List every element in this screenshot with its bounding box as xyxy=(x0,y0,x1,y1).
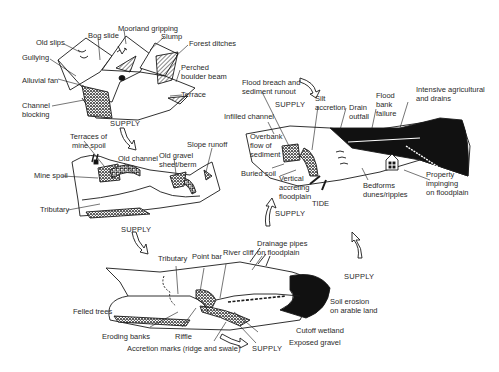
label-intensive-agricultural-2: and drains xyxy=(416,95,451,104)
label-slump: Slump xyxy=(161,33,182,42)
supply-arrow-5 xyxy=(352,232,362,258)
label-flood-breach-2: sediment runout xyxy=(242,88,296,97)
label-soil-erosion-2: on arable land xyxy=(330,307,378,316)
label-supply-5: SUPPLY xyxy=(344,273,374,282)
mountain-left xyxy=(58,38,112,90)
supply-arrow-1 xyxy=(120,128,136,150)
label-accretion-marks: Accretion marks (ridge and swale) xyxy=(127,345,240,354)
label-tributary-mining: Tributary xyxy=(40,206,69,215)
label-supply-6: SUPPLY xyxy=(252,345,282,354)
label-felled-trees: Felled trees xyxy=(73,308,112,317)
label-channel-blocking-2: blocking xyxy=(22,111,50,120)
label-drain-outfall-2: outfall xyxy=(349,113,369,122)
label-infilled-channel: Infilled channel xyxy=(224,113,274,122)
label-supply-4: SUPPLY xyxy=(275,210,305,219)
alluvial-fan xyxy=(82,86,112,118)
label-eroding-banks: Eroding banks xyxy=(102,333,150,342)
overbank-sediment xyxy=(282,144,300,162)
mining-panel xyxy=(72,154,220,218)
label-cutoff-wetland: Cutoff wetland xyxy=(296,327,344,336)
label-property-impinging-3: on floodplain xyxy=(426,189,469,198)
label-drainage-pipes-2: on floodplain xyxy=(257,249,300,258)
label-old-gravel-sheet-2: sheet/berm xyxy=(159,161,197,170)
label-tributary-lowland: Tributary xyxy=(158,255,187,264)
label-tide: TIDE xyxy=(312,200,329,209)
label-terraces-mine-spoil-2: mine spoil xyxy=(72,142,106,151)
label-gullying: Gullying xyxy=(22,54,49,63)
label-forest-ditches: Forest ditches xyxy=(189,40,236,49)
label-overbank-flow-3: sediment xyxy=(250,151,280,160)
label-supply-3: SUPPLY xyxy=(275,101,305,110)
upland-panel xyxy=(58,36,195,120)
label-buried-soil: Buried soil xyxy=(241,170,276,179)
label-bedforms-2: dunes/ripples xyxy=(363,191,408,200)
label-exposed-gravel: Exposed gravel xyxy=(289,339,341,348)
label-riffle: Riffle xyxy=(175,333,192,342)
label-bog-slide: Bog slide xyxy=(88,32,119,41)
label-old-channel: Old channel xyxy=(118,155,158,164)
supply-arrow-2 xyxy=(132,232,148,254)
label-terrace: Terrace xyxy=(181,91,206,100)
label-slope-runoff: Slope runoff xyxy=(187,141,227,150)
label-perched-boulder-beam-2: boulder beam xyxy=(181,73,227,82)
label-river-cliff: River cliff xyxy=(223,249,254,258)
label-supply-1: SUPPLY xyxy=(110,120,140,129)
label-point-bar: Point bar xyxy=(192,253,222,262)
label-alluvial-fan: Alluvial fan xyxy=(22,77,58,86)
label-flood-bank-failure-3: failure xyxy=(376,110,396,119)
label-mine-spoil: Mine spoil xyxy=(34,172,68,181)
forest-block xyxy=(156,52,178,84)
label-old-slips: Old slips xyxy=(36,39,65,48)
label-supply-2: SUPPLY xyxy=(121,226,151,235)
label-vertical-accreting-3: floodplain xyxy=(279,193,311,202)
label-silt-accretion-2: accretion xyxy=(315,104,345,113)
